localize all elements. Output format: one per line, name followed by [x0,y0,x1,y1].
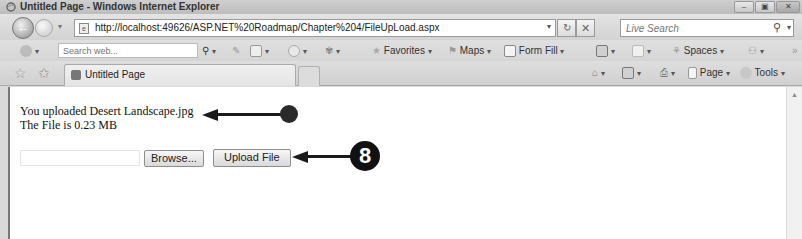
print-button[interactable]: ⎙ ▾ [660,67,675,79]
web-search-dropdown[interactable]: ▾ [212,47,216,56]
web-search-box[interactable] [58,43,198,58]
form-fill-icon [504,45,516,57]
maps-label: Maps [460,45,484,56]
address-row: ← ▾ e http://localhost:49626/ASP.NET%20R… [0,14,802,40]
live-search-input[interactable] [621,20,761,36]
butterfly-dropdown[interactable]: ▾ [336,47,340,56]
web-search-go-button[interactable]: ⚲ ▾ [202,43,216,58]
rss-feed-icon [596,45,608,57]
tools-dropdown-icon: ▾ [781,69,785,78]
contacts-dropdown[interactable]: ▾ [760,47,764,56]
search-icon[interactable]: ⚲ [773,21,781,34]
page-dropdown-icon: ▾ [726,69,730,78]
browser-window: Untitled Page - Windows Internet Explore… [0,0,802,239]
web-search-input[interactable] [59,45,197,58]
highlight-button[interactable]: ✎ [232,43,240,58]
page-menu-button[interactable]: Page ▾ [688,67,730,79]
contacts-button[interactable]: ⚇ ▾ [748,43,764,58]
windows-live-icon [20,45,32,57]
page-icon: e [79,23,89,34]
favorites-button[interactable]: ★ Favorites ▾ [372,43,432,58]
feeds-command-dropdown[interactable]: ▾ [637,69,641,78]
upload-file-button[interactable]: Upload File [213,149,291,167]
star-icon: ★ [372,45,381,56]
form-fill-button[interactable]: Form Fill ▾ [504,43,564,58]
photos-dropdown[interactable]: ▾ [647,47,651,56]
photo-icon [632,45,644,57]
home-button[interactable]: ⌂ ▾ [592,67,605,78]
file-path-input[interactable] [20,150,140,166]
callout-arrow-line [216,113,286,116]
maps-button[interactable]: ⚑ Maps ▾ [448,43,491,58]
browse-button[interactable]: Browse... [144,150,204,167]
feeds-dropdown[interactable]: ▾ [611,47,615,56]
favorites-center-icon[interactable]: ☆ [14,65,27,81]
mail-dropdown[interactable]: ▾ [265,47,269,56]
search-icon: ⚲ [202,45,209,56]
spaces-icon: ⚘ [672,45,681,56]
feeds-command-button[interactable]: ▾ [622,67,641,79]
mail-icon [250,45,262,57]
toolbar-overflow-chevron-icon[interactable]: » [792,43,798,58]
favorites-label: Favorites [384,45,425,56]
recent-pages-dropdown[interactable]: ▾ [58,22,62,31]
file-size-message: The File is 0.23 MB [20,118,117,133]
url-text[interactable]: http://localhost:49626/ASP.NET%20Roadmap… [95,22,439,33]
print-dropdown[interactable]: ▾ [671,69,675,78]
form-fill-dropdown[interactable]: ▾ [560,47,564,56]
spaces-dropdown[interactable]: ▾ [720,47,724,56]
home-dropdown[interactable]: ▾ [601,69,605,78]
butterfly-icon: ✾ [325,45,333,56]
highlighter-icon: ✎ [232,45,240,56]
back-button[interactable]: ← [12,17,34,39]
forward-button[interactable] [35,19,53,37]
window-controls: – ▣ ✕ [734,1,800,13]
stop-button[interactable]: ✕ [576,19,595,37]
tab-untitled-page[interactable]: Untitled Page [64,64,296,86]
add-to-favorites-icon[interactable]: ✩ [38,65,50,81]
vertical-scrollbar[interactable]: ▲ [786,87,802,239]
gear-icon [740,67,752,79]
ie-page-icon [71,70,81,80]
stop-icon: ✕ [581,22,590,34]
scroll-up-arrow-icon[interactable]: ▲ [791,91,798,98]
window-title: Untitled Page - Windows Internet Explore… [20,1,219,12]
spaces-button[interactable]: ⚘ Spaces ▾ [672,43,724,58]
page-icon [688,67,697,79]
search-options-dropdown[interactable]: ▾ [787,23,791,32]
tools-label: Tools [755,67,778,78]
back-arrow-icon: ← [17,20,30,35]
tab-row: ☆ ✩ Untitled Page ⌂ ▾ ▾ ⎙ ▾ Page ▾ Tools… [0,61,802,86]
messenger-icon [288,45,300,57]
mail-button[interactable]: ▾ [250,43,269,58]
title-bar: Untitled Page - Windows Internet Explore… [0,0,802,14]
maps-dropdown[interactable]: ▾ [487,47,491,56]
butterfly-button[interactable]: ✾ ▾ [325,43,340,58]
uploaded-file-message: You uploaded Desert Landscape.jpg [20,104,193,119]
address-dropdown-icon[interactable]: ▾ [547,22,551,31]
maximize-button[interactable]: ▣ [755,1,775,13]
tab-label: Untitled Page [85,69,145,80]
messenger-dropdown[interactable]: ▾ [303,47,307,56]
links-toolbar: ▾ ⚲ ▾ ✎ ▾ ▾ ✾ ▾ ★ Favorites ▾ ⚑ [0,40,802,61]
minimize-button[interactable]: – [734,1,754,13]
favorites-dropdown[interactable]: ▾ [428,47,432,56]
contacts-icon: ⚇ [748,45,757,56]
home-icon: ⌂ [592,67,598,78]
step-badge: 8 [350,141,380,171]
printer-icon: ⎙ [660,67,668,78]
refresh-button[interactable]: ↻ [557,19,576,37]
feeds-button[interactable]: ▾ [596,43,615,58]
toolbar-logo-dropdown[interactable]: ▾ [35,47,39,56]
new-tab-button[interactable] [298,66,320,86]
ie-logo-icon [6,2,16,12]
close-button[interactable]: ✕ [776,1,800,13]
form-fill-label: Form Fill [519,45,558,56]
tools-menu-button[interactable]: Tools ▾ [740,67,785,79]
toolbar-logo-button[interactable]: ▾ [20,43,39,58]
address-bar[interactable]: e http://localhost:49626/ASP.NET%20Roadm… [74,19,556,37]
photos-button[interactable]: ▾ [632,43,651,58]
spaces-label: Spaces [684,45,717,56]
messenger-button[interactable]: ▾ [288,43,307,58]
live-search-box[interactable]: ⚲ ▾ [620,19,794,37]
